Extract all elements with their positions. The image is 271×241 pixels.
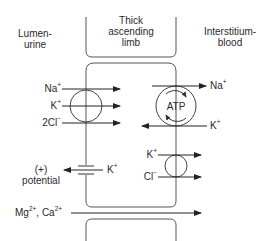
interstitium-label-line2: blood	[192, 37, 268, 48]
lumen-label-line2: urine	[3, 39, 67, 50]
interstitium-label: Interstitium- blood	[192, 26, 268, 48]
lumen-label-line1: Lumen-	[3, 28, 67, 39]
na-ion-label-basolateral: Na+	[210, 80, 227, 91]
k-ion-label-basolateral: K+	[210, 120, 220, 131]
cl-ion-label-apical: 2Cl−	[20, 117, 61, 128]
cell-label-line2: ascending	[96, 26, 166, 37]
cl-ion-label-kcl: Cl−	[130, 171, 157, 182]
interstitium-label-line1: Interstitium-	[192, 26, 268, 37]
bottom-cell-outline	[86, 219, 176, 241]
cell-label-line3: limb	[96, 37, 166, 48]
cell-label: Thick ascending limb	[96, 15, 166, 48]
lumen-label: Lumen- urine	[3, 28, 67, 50]
na-ion-label-apical: Na+	[20, 83, 61, 94]
positive-potential-line1: (+)	[18, 164, 64, 175]
thick-ascending-limb-diagram: Lumen- urine Thick ascending limb Inters…	[0, 0, 271, 241]
k-ion-label-channel: K+	[107, 164, 117, 175]
positive-potential-label: (+) potential	[18, 164, 64, 186]
positive-potential-line2: potential	[18, 175, 64, 186]
atp-label: ATP	[162, 101, 190, 112]
cell-label-line1: Thick	[96, 15, 166, 26]
k-ion-label-apical: K+	[20, 100, 61, 111]
paracellular-ions-label: Mg2+, Ca2+	[15, 207, 62, 218]
k-ion-label-kcl: K+	[130, 149, 157, 160]
